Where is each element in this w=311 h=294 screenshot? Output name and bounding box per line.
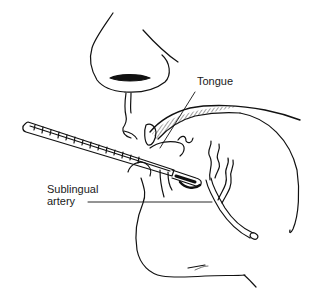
sublingual-artery-label: Sublingual artery (47, 183, 98, 207)
tongue-leader-line (160, 92, 195, 148)
medical-illustration (0, 0, 311, 294)
sublingual-artery-drawing (206, 141, 259, 241)
illustration-canvas: Tongue Sublingual artery (0, 0, 311, 294)
sublingual-artery-label-line2: artery (47, 195, 75, 207)
sublingual-artery-label-line1: Sublingual (47, 183, 98, 195)
upper-lip-drawing (123, 93, 137, 139)
nose-drawing (91, 13, 178, 92)
tongue-label: Tongue (197, 75, 233, 87)
thermometer-drawing (23, 122, 201, 186)
